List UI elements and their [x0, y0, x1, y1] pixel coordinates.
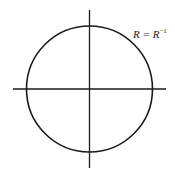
circle-diagram: R = R−1 [0, 0, 175, 173]
label-superscript: −1 [159, 27, 167, 35]
circle-label: R = R−1 [132, 27, 167, 40]
label-base: R = R [132, 28, 160, 40]
